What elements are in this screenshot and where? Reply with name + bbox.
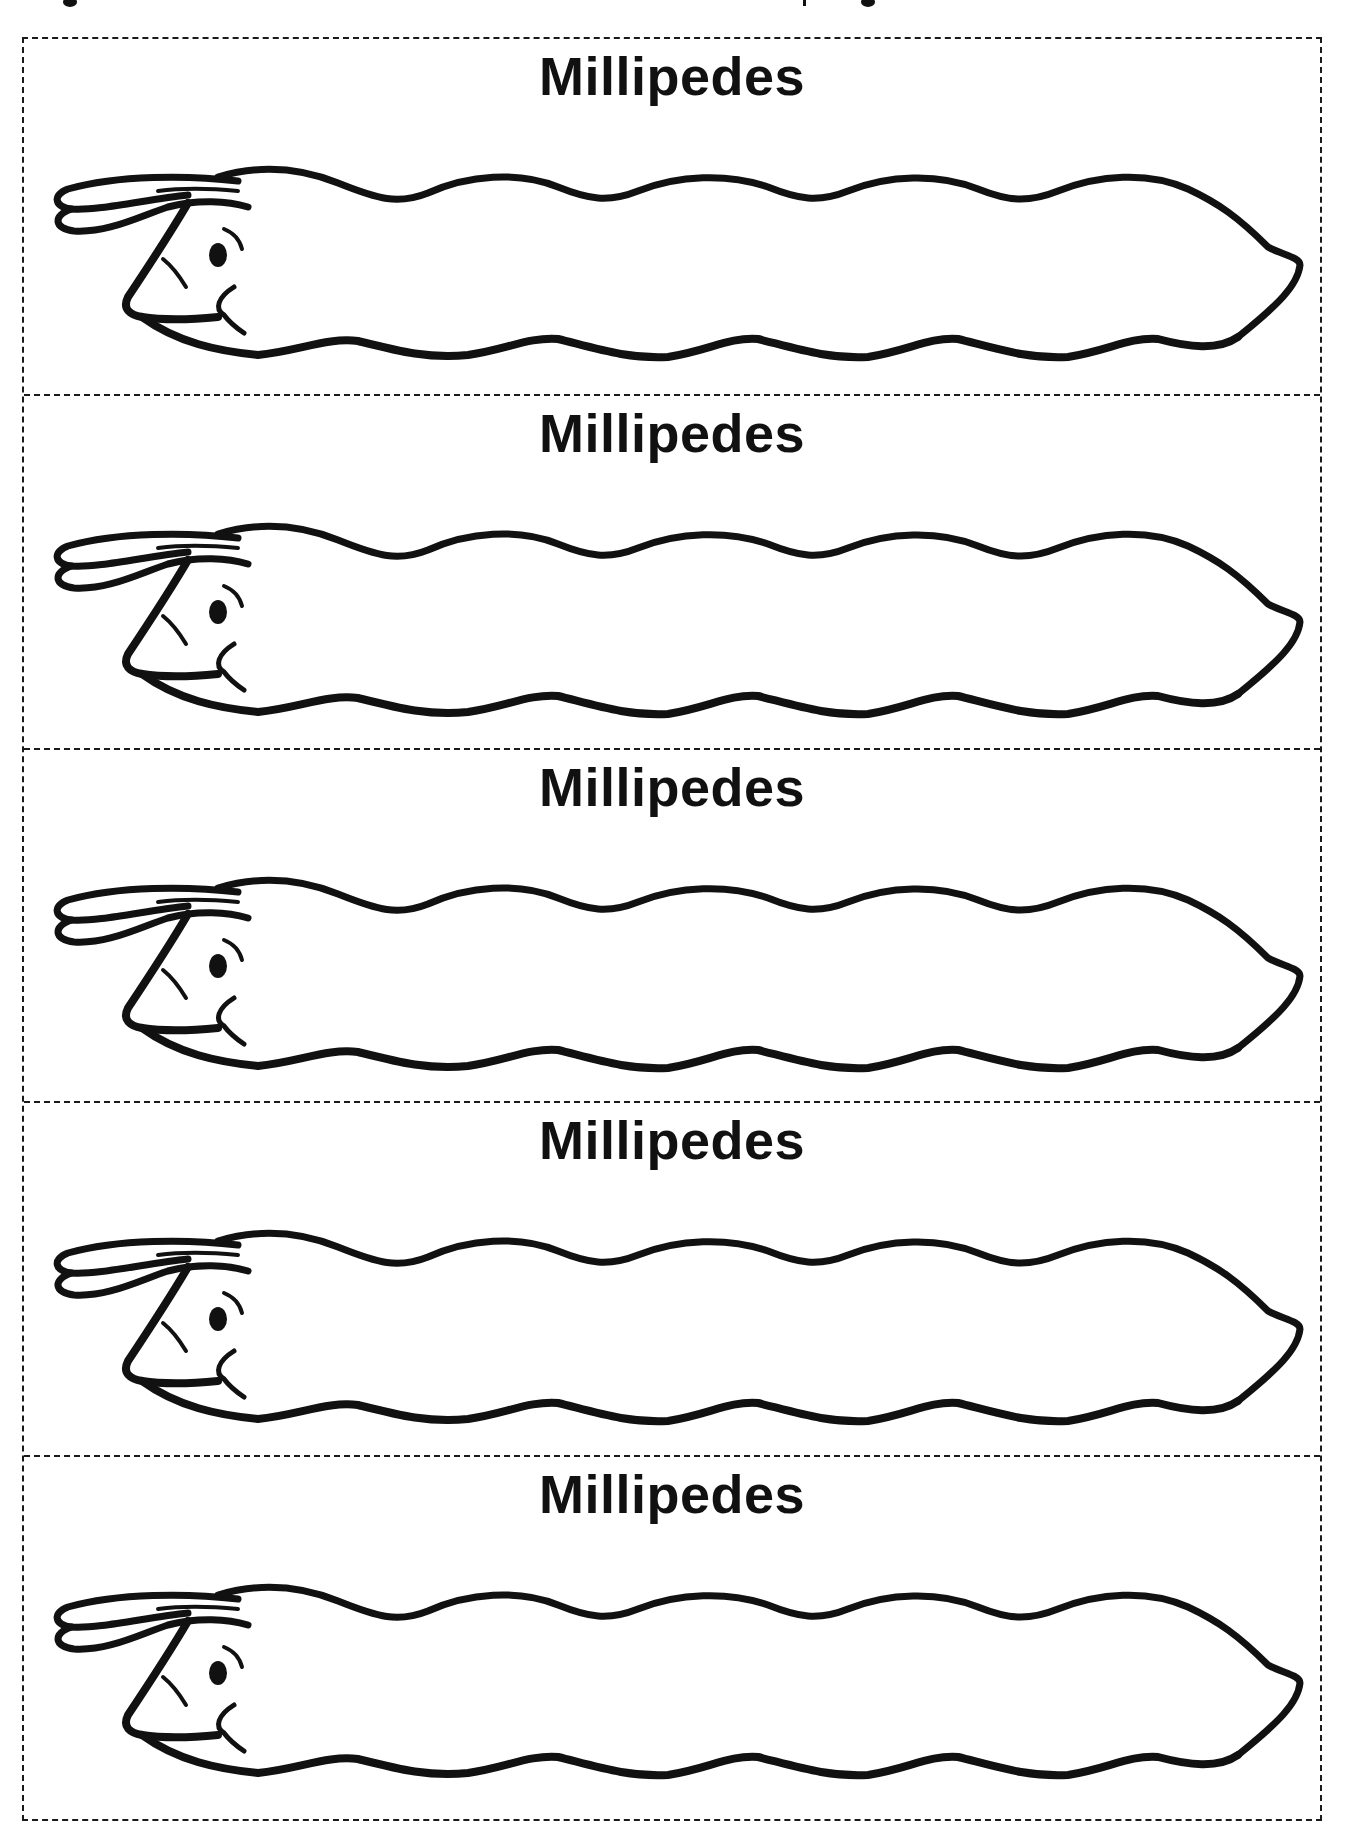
millipede-outline-icon bbox=[38, 1201, 1312, 1451]
millipede-outline-icon bbox=[38, 1555, 1312, 1805]
strip-title: Millipedes bbox=[24, 756, 1320, 818]
cut-strip-3: Millipedes bbox=[24, 748, 1320, 1101]
millipede-outline-icon bbox=[38, 494, 1312, 744]
strip-title: Millipedes bbox=[24, 402, 1320, 464]
strip-title: Millipedes bbox=[24, 1109, 1320, 1171]
cut-strip-5: Millipedes bbox=[24, 1455, 1320, 1821]
cut-out-sheet: Millipedes bbox=[22, 37, 1322, 1821]
clipped-header-fragment bbox=[0, 0, 1348, 12]
cut-strip-4: Millipedes bbox=[24, 1101, 1320, 1454]
strip-title: Millipedes bbox=[24, 1463, 1320, 1525]
cut-strip-2: Millipedes bbox=[24, 394, 1320, 747]
millipede-outline-icon bbox=[38, 137, 1312, 387]
millipede-outline-icon bbox=[38, 848, 1312, 1098]
strip-title: Millipedes bbox=[24, 45, 1320, 107]
cut-strip-1: Millipedes bbox=[24, 39, 1320, 392]
